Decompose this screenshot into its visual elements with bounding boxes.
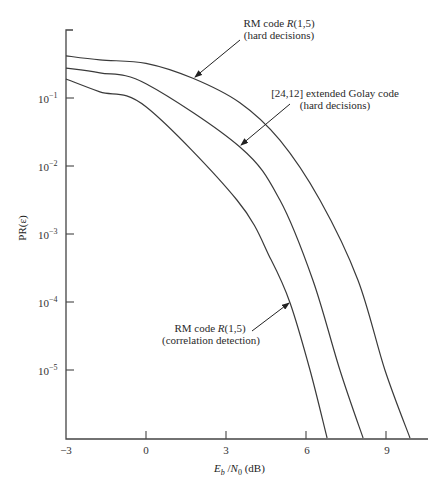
annotation-rm-hard-line2: (hard decisions) xyxy=(236,30,322,41)
y-axis-label: PR(ε) xyxy=(16,210,28,246)
ytick-label-5: 10−5 xyxy=(38,363,58,377)
annotation-golay: [24,12] extended Golay code (hard decisi… xyxy=(268,88,402,111)
ytick-label-3: 10−3 xyxy=(38,227,58,241)
ytick-label-1: 10−1 xyxy=(38,91,58,105)
x-axis-label: Eb /N0 (dB) xyxy=(214,462,265,477)
annotation-golay-line1: [24,12] extended Golay code xyxy=(268,88,402,99)
xtick-label-3: 3 xyxy=(216,444,236,456)
chart-plot-area xyxy=(0,0,443,494)
tick-marks xyxy=(66,98,386,439)
annotation-arrows xyxy=(195,40,290,331)
xtick-label-0: 0 xyxy=(136,444,156,456)
xtick-label-6: 6 xyxy=(297,444,317,456)
annotation-rm-hard-line1: RM code R(1,5) xyxy=(236,18,322,29)
annotation-rm-correlation: RM code R(1,5) (correlation detection) xyxy=(162,323,258,346)
annotation-rm-correlation-line2: (correlation detection) xyxy=(162,335,258,346)
xtick-label-9: 9 xyxy=(377,444,397,456)
annotation-rm-correlation-line1: RM code R(1,5) xyxy=(162,323,258,334)
annotation-golay-line2: (hard decisions) xyxy=(268,100,402,111)
ytick-label-2: 10−2 xyxy=(38,159,58,173)
curve-rm-correlation-detection xyxy=(66,79,327,438)
curves xyxy=(66,56,410,438)
annotation-rm-hard: RM code R(1,5) (hard decisions) xyxy=(236,18,322,41)
curve-rm-hard-decisions xyxy=(66,56,410,438)
xtick-label-neg3: −3 xyxy=(56,444,76,456)
ytick-label-4: 10−4 xyxy=(38,295,58,309)
curve-golay-hard-decisions xyxy=(66,68,363,438)
arrow-rm-hard xyxy=(195,40,240,77)
